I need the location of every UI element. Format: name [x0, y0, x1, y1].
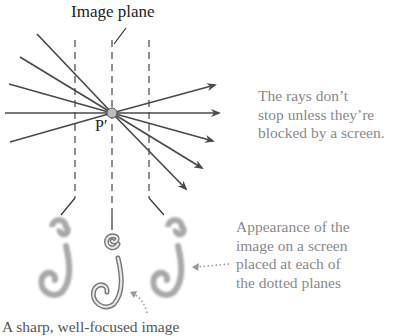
- rays-note: The rays don’t stop unless they’re block…: [258, 87, 385, 143]
- sharp-image-center: [93, 236, 121, 307]
- point-label: P′: [95, 117, 107, 135]
- appearance-note-line: the dotted planes: [236, 274, 350, 293]
- appearance-pointer: [192, 263, 229, 271]
- dashed-planes: [75, 40, 149, 215]
- blurred-image-right: [153, 220, 183, 295]
- title-pointer-line: [114, 28, 126, 44]
- caption-pointer: [130, 291, 147, 313]
- appearance-note-line: Appearance of the: [236, 218, 350, 237]
- appearance-note: Appearance of the image on a screen plac…: [236, 218, 350, 292]
- image-plane-title: Image plane: [71, 2, 155, 22]
- rays-note-line: blocked by a screen.: [258, 124, 385, 143]
- outgoing-rays: [112, 85, 219, 189]
- appearance-note-line: image on a screen: [236, 237, 350, 256]
- blurred-image-left: [41, 220, 69, 295]
- rays-note-line: The rays don’t: [258, 87, 385, 106]
- appearance-note-line: placed at each of: [236, 255, 350, 274]
- bottom-caption: A sharp, well-focused image: [2, 318, 179, 336]
- focal-point-icon: [107, 108, 117, 118]
- rays-note-line: stop unless they’re: [258, 106, 385, 125]
